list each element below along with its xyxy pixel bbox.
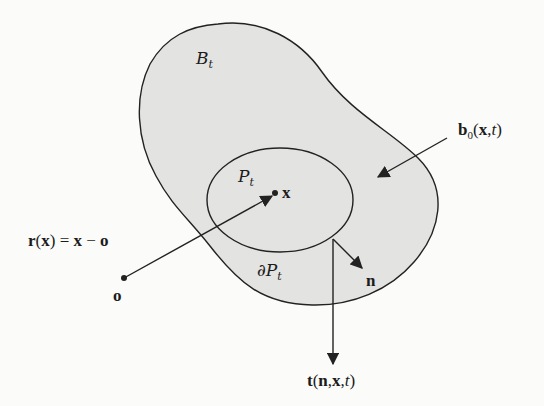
origin-label: o: [113, 287, 122, 304]
traction-arg-n: n: [318, 371, 327, 390]
body-subscript: t: [209, 58, 213, 71]
boundary-symbol: P: [266, 260, 277, 280]
subregion-symbol: P: [238, 166, 249, 186]
traction-label: t(n,x,t): [307, 372, 355, 389]
subregion-subscript: t: [249, 176, 253, 189]
material-point-label: x: [282, 184, 291, 201]
body-symbol: B: [196, 48, 209, 68]
boundary-label: ∂Pt: [257, 262, 282, 279]
diagram-graphics: [0, 0, 544, 406]
equals-sign: =: [60, 231, 70, 250]
boundary-partial-symbol: ∂: [257, 260, 266, 280]
material-point-dot: [272, 190, 278, 196]
rhs-x: x: [73, 231, 82, 250]
traction-arg-x: x: [332, 371, 341, 390]
origin-dot: [121, 275, 127, 281]
body-force-arg-x: x: [479, 120, 488, 139]
minus-sign: −: [86, 231, 96, 250]
body-force-label: b0(x,t): [458, 121, 502, 138]
subregion-label: Pt: [238, 168, 254, 185]
position-func: r: [28, 231, 36, 250]
position-arg: x: [41, 231, 50, 250]
body-label: Bt: [196, 50, 213, 67]
normal-label: n: [366, 272, 375, 289]
body-force-subscript: 0: [467, 129, 473, 141]
continuum-diagram: Bt Pt x ∂Pt n r(x) = x − o o b0(x,t) t(n…: [0, 0, 544, 406]
position-vector-equation: r(x) = x − o: [28, 232, 109, 249]
boundary-subscript: t: [277, 270, 281, 283]
body-region-B: [139, 23, 438, 305]
rhs-o: o: [100, 231, 109, 250]
